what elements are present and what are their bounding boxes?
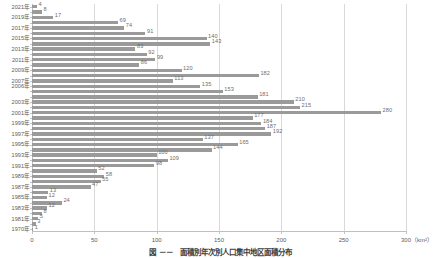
bar (32, 95, 258, 98)
bar (32, 37, 207, 40)
bar-value-label: 1 (35, 224, 38, 231)
bar-value-label: 137 (204, 134, 214, 141)
bar-value-label: 192 (273, 128, 283, 135)
y-axis-tick-label: 1997年 (12, 131, 30, 138)
bar (32, 201, 62, 204)
bar-value-label: 47 (92, 181, 98, 188)
bar (32, 185, 91, 188)
bar-value-label: 135 (202, 81, 212, 88)
gridline-300 (406, 4, 407, 232)
bar (32, 169, 97, 172)
bar (32, 26, 124, 29)
bar-value-label: 12 (48, 192, 54, 199)
x-axis-labels: 050100150200250300（km²） (32, 234, 406, 246)
bar (32, 153, 157, 156)
figure-caption: 図 －－ 面積別年次別人口集中地区面積分布 (0, 247, 441, 258)
y-axis-tick-label: 2001年 (12, 110, 30, 117)
bar (32, 74, 259, 77)
bar (32, 148, 212, 151)
y-axis-tick-label: 2013年 (12, 46, 30, 53)
bar-value-label: 12 (48, 202, 54, 209)
bar-value-label: 55 (102, 176, 108, 183)
bar-value-label: 99 (157, 54, 163, 61)
y-axis-labels: 2021年2019年2017年2015年2013年2011年2009年2007年… (0, 4, 32, 232)
y-axis-tick-label: 1989年 (12, 173, 30, 180)
bar (32, 180, 101, 183)
bar-value-label: 8 (43, 6, 46, 13)
x-axis-tick-label: 0 (30, 236, 33, 244)
x-axis-tick-label: 100 (152, 236, 162, 244)
y-axis-tick-label: 1999年 (12, 120, 30, 127)
bar (32, 159, 168, 162)
x-axis-tick (94, 231, 95, 234)
bar (32, 127, 265, 130)
x-axis-tick-label: 50 (91, 236, 98, 244)
x-axis-tick (219, 231, 220, 234)
bar-value-label: 8 (43, 208, 46, 215)
bar (32, 69, 182, 72)
bar-value-label: 113 (174, 75, 183, 82)
bar (32, 21, 118, 24)
bar-value-label: 91 (147, 28, 153, 35)
bar (32, 116, 253, 119)
bar (32, 122, 261, 125)
x-axis-unit-label: （km²） (411, 236, 433, 244)
bar-value-label: 165 (239, 139, 249, 146)
bar-value-label: 144 (213, 144, 223, 151)
y-axis-tick-label: 1993年 (12, 152, 30, 159)
bar (32, 10, 42, 13)
bar-value-label: 4 (38, 1, 41, 8)
bar-value-label: 120 (183, 65, 193, 72)
bar (32, 106, 300, 109)
x-axis-tick-label: 250 (339, 236, 349, 244)
bar-value-label: 143 (212, 38, 222, 45)
x-axis-tick (157, 231, 158, 234)
bar-value-label: 100 (158, 149, 168, 156)
bar-chart: 2021年2019年2017年2015年2013年2011年2009年2007年… (0, 0, 441, 258)
bar (32, 16, 53, 19)
bar-value-label: 92 (148, 49, 154, 56)
bar (32, 143, 238, 146)
bar (32, 90, 223, 93)
y-axis-tick-label: 1991年 (12, 163, 30, 170)
y-axis-tick-label: 1983年 (12, 205, 30, 212)
x-axis-tick (281, 231, 282, 234)
x-axis-tick (344, 231, 345, 234)
y-axis-tick-label: 2009年 (12, 67, 30, 74)
bar-rows: 4817697491140143839299861201821131351531… (32, 4, 406, 232)
bar-value-label: 280 (383, 107, 393, 114)
bar (32, 100, 294, 103)
bar (32, 42, 210, 45)
y-axis-tick-label: 1981年 (12, 216, 30, 223)
y-axis-tick-label: 2021年 (12, 4, 30, 11)
x-axis-tick (406, 231, 407, 234)
y-axis-tick-label: 1970年 (12, 226, 30, 233)
bar (32, 196, 47, 199)
bar (32, 79, 173, 82)
bar-value-label: 109 (169, 155, 179, 162)
bar-value-label: 215 (302, 102, 312, 109)
x-axis-tick-label: 300 (401, 236, 411, 244)
bar-value-label: 24 (63, 197, 69, 204)
bar (32, 111, 381, 114)
y-axis-tick-label: 2017年 (12, 25, 30, 32)
bar (32, 5, 37, 8)
plot-area: 4817697491140143839299861201821131351531… (32, 4, 406, 232)
bar-value-label: 181 (259, 91, 269, 98)
x-axis-tick-label: 150 (214, 236, 224, 244)
bar (32, 53, 147, 56)
bar (32, 175, 104, 178)
y-axis-tick-label: 1995年 (12, 141, 30, 148)
y-axis-tick-label: 1987年 (12, 184, 30, 191)
bar (32, 58, 155, 61)
bar (32, 164, 154, 167)
x-axis-tick (32, 231, 33, 234)
bar-value-label: 98 (156, 160, 162, 167)
bar-value-label: 182 (260, 70, 270, 77)
bar-value-label: 86 (141, 59, 147, 66)
bar (32, 191, 48, 194)
x-axis-tick-label: 200 (276, 236, 286, 244)
bar (32, 138, 203, 141)
bar (32, 85, 200, 88)
y-axis-tick-label: 2015年 (12, 35, 30, 42)
